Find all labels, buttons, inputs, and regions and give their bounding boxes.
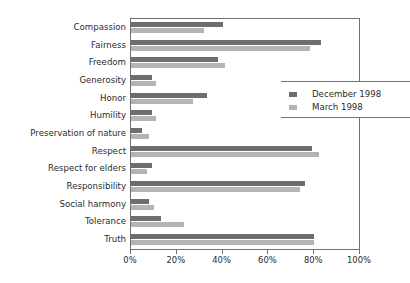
bar-march-1998 [131,99,193,104]
x-axis-tick [222,250,223,254]
legend-swatch-icon [289,92,297,97]
category-label: Preservation of nature [0,129,126,138]
bar-group [131,196,360,214]
bar-group [131,143,360,161]
legend-swatch-icon [289,105,297,110]
bar-group [131,54,360,72]
legend-label: March 1998 [312,101,363,113]
bar-december-1998 [131,181,305,186]
category-label: Social harmony [0,200,126,209]
x-axis-tick-label: 40% [212,255,231,265]
bar-december-1998 [131,57,218,62]
bar-december-1998 [131,146,312,151]
x-axis-tick [267,250,268,254]
x-axis-tick-label: 60% [258,255,277,265]
legend-label: December 1998 [312,88,381,100]
bar-group [131,231,360,249]
bar-december-1998 [131,128,142,133]
chart-legend: December 1998 March 1998 [281,81,410,118]
x-axis-tick-label: 20% [166,255,185,265]
bar-december-1998 [131,216,161,221]
bar-december-1998 [131,93,207,98]
category-label: Respect for elders [0,164,126,173]
bar-march-1998 [131,222,184,227]
x-axis-tick-label: 80% [304,255,323,265]
bar-group [131,19,360,37]
category-label: Compassion [0,23,126,32]
bar-group [131,178,360,196]
bar-december-1998 [131,163,152,168]
bar-group [131,37,360,55]
category-label: Fairness [0,41,126,50]
bar-march-1998 [131,187,300,192]
category-label: Respect [0,147,126,156]
x-axis-tick-label: 0% [123,255,136,265]
bar-december-1998 [131,40,321,45]
bar-march-1998 [131,134,149,139]
bar-december-1998 [131,199,149,204]
bar-march-1998 [131,81,156,86]
bar-chart: CompassionFairnessFreedomGenerosityHonor… [0,0,410,283]
category-label: Responsibility [0,182,126,191]
bar-march-1998 [131,205,154,210]
bar-march-1998 [131,240,314,245]
category-label: Honor [0,94,126,103]
bar-march-1998 [131,152,319,157]
x-axis: 0%20%40%60%80%100% [130,250,360,270]
bar-march-1998 [131,63,225,68]
category-label: Generosity [0,76,126,85]
x-axis-tick [176,250,177,254]
bar-group [131,161,360,179]
category-axis-labels: CompassionFairnessFreedomGenerosityHonor… [0,19,126,249]
category-label: Truth [0,235,126,244]
bar-march-1998 [131,46,310,51]
x-axis-tick [359,250,360,254]
bar-december-1998 [131,110,152,115]
x-axis-tick-label: 100% [347,255,371,265]
bar-march-1998 [131,116,156,121]
category-label: Tolerance [0,217,126,226]
bar-group [131,125,360,143]
x-axis-tick [130,250,131,254]
bar-december-1998 [131,22,223,27]
x-axis-tick [313,250,314,254]
bars-container [131,19,360,249]
bar-march-1998 [131,169,147,174]
bar-december-1998 [131,75,152,80]
bar-march-1998 [131,28,204,33]
category-label: Humility [0,111,126,120]
category-label: Freedom [0,58,126,67]
bar-group [131,214,360,232]
bar-december-1998 [131,234,314,239]
